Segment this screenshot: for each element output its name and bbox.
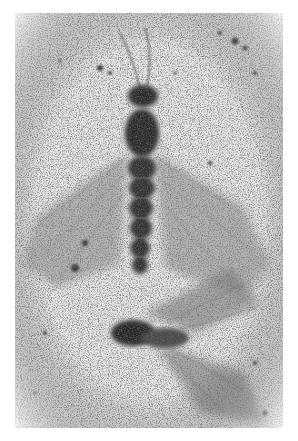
figure-photo xyxy=(15,13,283,428)
fossil-image xyxy=(15,13,283,428)
figure-caption xyxy=(10,433,295,441)
fossil-plate xyxy=(15,13,283,428)
